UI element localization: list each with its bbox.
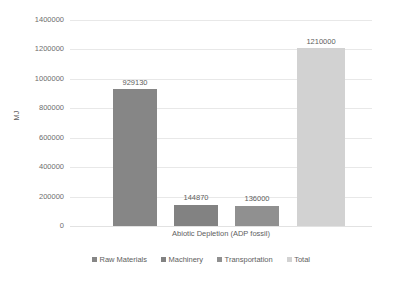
legend-label: Raw Materials [99,255,147,264]
y-axis-tick-labels: 1400000 1200000 1000000 800000 600000 40… [16,0,68,284]
bar-raw-materials[interactable] [113,89,157,226]
y-axis-tick-label: 600000 [39,134,64,142]
plot-area: 929130 144870 136000 1210000 [70,20,372,226]
y-axis-tick-label: 800000 [39,104,64,112]
y-axis-tick-label: 0 [60,222,64,230]
bars-layer [70,20,372,226]
y-axis-tick-label: 400000 [39,163,64,171]
legend-item-total[interactable]: Total [287,255,310,264]
legend-swatch-icon [287,257,292,262]
bar-transportation[interactable] [235,206,279,226]
y-axis-tick-label: 1400000 [35,16,64,24]
legend-swatch-icon [217,257,222,262]
y-axis-tick-label: 1000000 [35,75,64,83]
legend-label: Transportation [225,255,273,264]
bar-chart-figure: MJ 1400000 1200000 1000000 800000 600000… [0,0,402,284]
data-label-machinery: 144870 [174,193,218,202]
y-axis-tick-label: 200000 [39,193,64,201]
data-label-raw-materials: 929130 [113,78,157,87]
y-axis-tick-label: 1200000 [35,45,64,53]
chart-legend: Raw Materials Machinery Transportation T… [0,255,402,264]
x-axis-label: Abiotic Depletion (ADP fossil) [70,229,372,238]
legend-item-machinery[interactable]: Machinery [161,255,203,264]
legend-item-raw-materials[interactable]: Raw Materials [92,255,147,264]
legend-item-transportation[interactable]: Transportation [217,255,273,264]
data-label-total: 1210000 [295,37,347,46]
legend-swatch-icon [92,257,97,262]
legend-label: Machinery [168,255,203,264]
data-label-transportation: 136000 [235,194,279,203]
legend-label: Total [294,255,310,264]
legend-swatch-icon [161,257,166,262]
zero-baseline [70,226,372,227]
bar-total[interactable] [297,48,345,226]
bar-machinery[interactable] [174,205,218,226]
